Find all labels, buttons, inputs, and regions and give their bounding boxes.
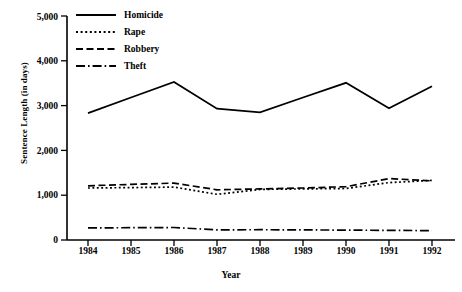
series-line-rape (88, 180, 432, 194)
series-lines (88, 82, 432, 231)
legend-swatches (76, 15, 116, 66)
chart-figure: Sentence Length (in days) Year 0 1,000 2… (0, 0, 462, 292)
y-axis-ticks (61, 16, 67, 240)
series-line-homicide (88, 82, 432, 113)
series-line-robbery (88, 179, 432, 190)
axes (61, 16, 455, 246)
chart-canvas (0, 0, 462, 292)
series-line-theft (88, 228, 432, 231)
x-axis-ticks (88, 240, 432, 246)
